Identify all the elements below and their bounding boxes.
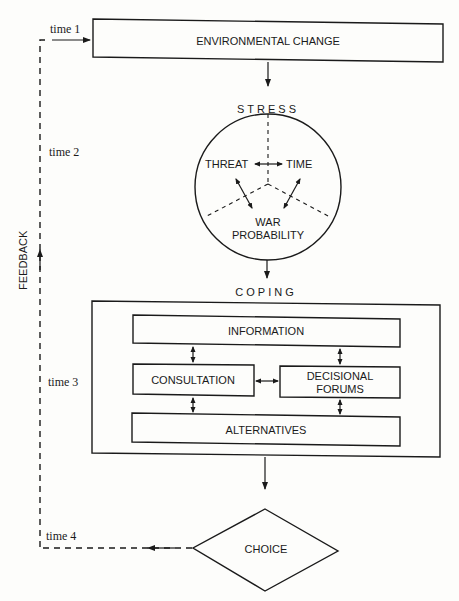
decisional-label: DECISIONAL [307, 370, 374, 382]
feedback-loop-line [40, 40, 46, 547]
environmental-change-box: ENVIRONMENTAL CHANGE [93, 19, 443, 62]
coping-diagram: time 1 time 2 time 3 time 4 FEEDBACK ENV… [0, 0, 459, 601]
information-box: INFORMATION [133, 315, 400, 347]
time-war-arrow [284, 179, 300, 208]
consultation-label: CONSULTATION [151, 374, 235, 386]
choice-label: CHOICE [245, 543, 288, 555]
alternatives-box: ALTERNATIVES [132, 413, 400, 446]
consultation-box: CONSULTATION [133, 364, 254, 396]
war-label: WAR [255, 216, 280, 228]
information-label: INFORMATION [228, 325, 304, 337]
decisional-forums-box: DECISIONAL FORUMS [280, 366, 400, 398]
forums-label: FORUMS [316, 383, 364, 395]
time-3-label: time 3 [48, 375, 78, 389]
stress-circle: STRESS THREAT TIME WAR PROBABILITY [195, 103, 341, 260]
alternatives-label: ALTERNATIVES [226, 424, 307, 436]
time-label: TIME [286, 158, 312, 170]
feedback-label: FEEDBACK [17, 230, 29, 290]
environmental-change-label: ENVIRONMENTAL CHANGE [196, 35, 340, 47]
probability-label: PROBABILITY [232, 229, 305, 241]
coping-label: COPING [235, 286, 296, 298]
threat-war-arrow [236, 179, 252, 208]
time-2-label: time 2 [49, 145, 79, 159]
time-4-label: time 4 [46, 529, 76, 543]
stress-label: STRESS [237, 103, 299, 115]
time-1-label: time 1 [50, 22, 80, 36]
choice-diamond: CHOICE [193, 509, 338, 591]
threat-label: THREAT [205, 158, 248, 170]
